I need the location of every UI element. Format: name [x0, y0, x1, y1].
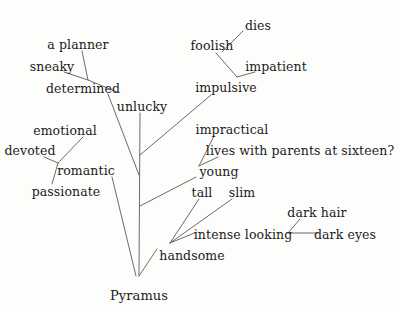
edge-foolish-to-impulsive-junction — [216, 53, 237, 77]
node-impractical: impractical — [196, 123, 269, 136]
node-dies: dies — [245, 19, 271, 32]
node-tall: tall — [192, 186, 213, 199]
edge-handsome-to-root — [139, 249, 157, 276]
edge-emotional-to-romantic-junction — [58, 137, 83, 163]
node-lives: lives with parents at sixteen? — [206, 144, 394, 157]
node-slim: slim — [229, 186, 256, 199]
node-pyramus: Pyramus — [110, 289, 168, 302]
node-handsome: handsome — [159, 249, 225, 262]
node-intense: intense looking — [194, 228, 292, 241]
node-dark-eyes: dark eyes — [314, 228, 376, 241]
node-unlucky: unlucky — [117, 100, 168, 113]
node-romantic: romantic — [57, 164, 115, 177]
node-impatient: impatient — [245, 60, 307, 73]
node-young: young — [199, 165, 238, 178]
node-emotional: emotional — [33, 124, 97, 137]
node-dark-hair: dark hair — [287, 206, 346, 219]
edge-devoted-to-romantic-junction — [44, 157, 58, 163]
node-determined: determined — [46, 82, 120, 95]
edge-romantic-to-root — [112, 177, 136, 276]
node-sneaky: sneaky — [30, 60, 75, 73]
node-a-planner: a planner — [47, 38, 108, 51]
node-devoted: devoted — [4, 144, 55, 157]
edge-young-to-trunk — [140, 177, 196, 206]
edge-unlucky-to-trunk-root — [139, 113, 140, 276]
node-impulsive: impulsive — [195, 81, 257, 94]
node-passionate: passionate — [32, 185, 101, 198]
diagram-canvas: a plannersneakydeterminedunluckyemotiona… — [0, 0, 399, 312]
node-foolish: foolish — [191, 39, 234, 52]
